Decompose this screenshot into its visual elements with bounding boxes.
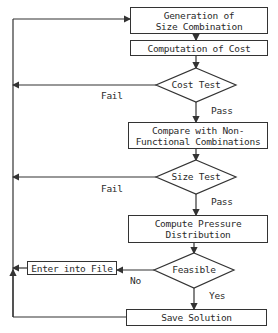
compare-line2: Functional Combinations [136, 136, 261, 147]
pressure-line2: Distribution [165, 229, 230, 240]
computation-cost-label: Computation of Cost [148, 43, 251, 54]
generation-box: Generation of Size Combination [130, 7, 268, 34]
computation-cost-box: Computation of Cost [130, 40, 268, 56]
cost-fail-label: Fail [101, 90, 123, 101]
size-pass-label: Pass [211, 196, 233, 207]
cost-test-label: Cost Test [156, 79, 236, 90]
enter-file-label: Enter into File [31, 263, 112, 274]
pressure-box: Compute Pressure Distribution [128, 215, 268, 243]
feasible-yes-label: Yes [209, 290, 225, 301]
generation-line2: Size Combination [156, 21, 243, 32]
save-solution-label: Save Solution [161, 312, 231, 323]
pressure-line1: Compute Pressure [155, 218, 242, 229]
generation-line1: Generation of [164, 10, 234, 21]
compare-line1: Compare with Non- [152, 125, 244, 136]
feasible-label: Feasible [154, 264, 234, 275]
feasible-no-label: No [130, 275, 141, 286]
compare-box: Compare with Non- Functional Combination… [128, 122, 268, 149]
size-test-label: Size Test [156, 171, 236, 182]
enter-file-box: Enter into File [27, 261, 117, 275]
size-fail-label: Fail [101, 183, 123, 194]
cost-pass-label: Pass [211, 105, 233, 116]
save-solution-box: Save Solution [126, 309, 267, 326]
